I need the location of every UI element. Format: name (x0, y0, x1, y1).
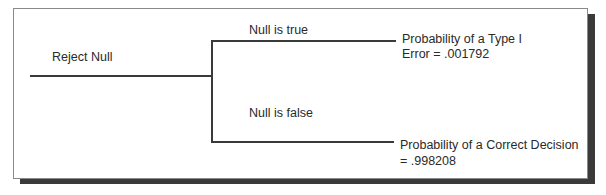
branch-label-true: Null is true (249, 22, 308, 38)
root-line (30, 75, 213, 77)
branch-label-false: Null is false (249, 105, 313, 121)
outcome-type1-line1: Probability of a Type I (402, 31, 522, 47)
outcome-correct-line2: = .998208 (400, 153, 456, 169)
branch-line-true (211, 40, 396, 42)
outcome-correct-line1: Probability of a Correct Decision (400, 137, 579, 153)
branch-line-false (211, 141, 394, 143)
root-label: Reject Null (52, 49, 112, 65)
branch-connector (211, 40, 213, 143)
outcome-type1-line2: Error = .001792 (402, 46, 489, 62)
